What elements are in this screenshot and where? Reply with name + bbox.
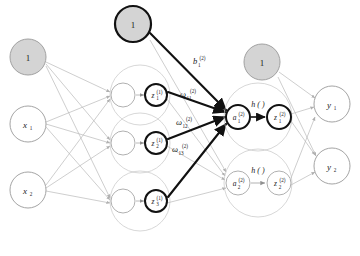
weight-11-base: ω — [180, 89, 186, 99]
edge-x2-h2 — [46, 146, 110, 188]
weight-13-sup: (2) — [182, 143, 188, 150]
edge-weight-labels: b 1 (2) ω 11 (2) ω 12 (2) ω 13 (2) — [172, 55, 206, 156]
output-z2-sup: (2) — [279, 177, 285, 184]
output-y2-sub: 2 — [334, 167, 337, 173]
edge-bias-h2 — [46, 64, 110, 140]
output-z1-sub: 1 — [279, 118, 282, 124]
hidden-z2-sub: 2 — [156, 143, 159, 149]
bias-input-label: 1 — [26, 53, 31, 63]
output-z1-label: z — [273, 113, 277, 122]
edge-biasO-y1 — [279, 72, 315, 98]
bias-weight-sup: (2) — [200, 55, 206, 62]
hidden-z1-sup: (1) — [156, 89, 162, 96]
weight-13-sub: 13 — [179, 150, 185, 156]
weight-11-sup: (2) — [190, 88, 196, 95]
output-y2-label: y — [326, 162, 331, 172]
output-unit-1: a 1 (2) h ( ) z 1 (2) — [226, 100, 291, 129]
hidden-bias-node: 1 — [115, 6, 151, 42]
output-a2-sub: 2 — [238, 184, 241, 190]
input-layer: 1 x 1 x 2 — [10, 39, 46, 208]
hidden-a-nodes — [111, 83, 135, 213]
hidden-z3-label: z — [151, 197, 155, 206]
input-x1-circle[interactable] — [10, 106, 46, 142]
edge-z3-a2 — [167, 188, 226, 203]
edges-input-to-hidden — [46, 62, 110, 203]
output-a2-label: a — [233, 179, 237, 188]
input-x1-label: x — [22, 120, 27, 130]
hidden-z1-label: z — [151, 91, 155, 100]
hidden-z1-sub: 1 — [156, 95, 159, 101]
hidden-a1-circle[interactable] — [111, 83, 135, 107]
bias-output-label: 1 — [260, 58, 265, 68]
output-y1-circle[interactable] — [314, 86, 350, 122]
output-a1-label: a — [233, 113, 237, 122]
weight-11-sub: 11 — [187, 95, 192, 101]
edge-x1-h3 — [46, 127, 110, 200]
output-h1-label: h ( ) — [251, 100, 265, 109]
input-x2-label: x — [22, 186, 27, 196]
input-x1-sub: 1 — [30, 125, 33, 131]
hidden-z-nodes: z 1 (1) z 2 (1) z 3 (1) — [145, 84, 167, 212]
hidden-internal-arrows — [136, 95, 144, 201]
output-y2-circle[interactable] — [314, 148, 350, 184]
weight-13-base: ω — [172, 144, 178, 154]
edge-x2-h3 — [46, 191, 110, 203]
edge-z1-to-a1 — [168, 92, 225, 112]
bias-weight-sub: 1 — [198, 62, 201, 68]
input-x2-circle[interactable] — [10, 172, 46, 208]
output-h2-label: h ( ) — [251, 166, 265, 175]
hidden-a3-circle[interactable] — [111, 189, 135, 213]
neural-network-svg: 1 x 1 x 2 1 z 1 (1) z 2 (1) z 3 (1) — [0, 0, 360, 256]
edge-z2o-y2 — [291, 172, 315, 185]
output-a1-sub: 1 — [238, 118, 241, 124]
output-y1-label: y — [326, 100, 331, 110]
hidden-z3-sub: 3 — [156, 201, 159, 207]
diagram-canvas: 1 x 1 x 2 1 z 1 (1) z 2 (1) z 3 (1) — [0, 0, 360, 256]
output-y1-sub: 1 — [334, 105, 337, 111]
bias-weight-base: b — [193, 56, 197, 66]
hidden-a2-circle[interactable] — [111, 131, 135, 155]
output-a2-sup: (2) — [238, 177, 244, 184]
bias-hidden-label: 1 — [131, 20, 136, 30]
output-z2-label: z — [273, 179, 277, 188]
output-unit-2: a 2 (2) h ( ) z 2 (2) — [226, 166, 291, 195]
weight-12-base: ω — [176, 117, 182, 127]
edge-x2-h1 — [46, 99, 110, 185]
edge-x1-h1 — [46, 96, 110, 122]
output-layer: y 1 y 2 — [314, 86, 350, 184]
output-bias-node: 1 — [244, 44, 280, 80]
edge-bias-h1 — [46, 62, 110, 92]
weight-12-sup: (2) — [186, 116, 192, 123]
output-a1-sup: (2) — [238, 111, 244, 118]
hidden-z2-sup: (1) — [156, 137, 162, 144]
weight-12-sub: 12 — [183, 123, 189, 129]
output-z1-sup: (2) — [279, 111, 285, 118]
edge-x1-h2 — [46, 124, 110, 143]
hidden-z3-sup: (1) — [156, 195, 162, 202]
hidden-z2-label: z — [151, 139, 155, 148]
output-z2-sub: 2 — [279, 184, 282, 190]
edge-bias-h3 — [46, 66, 110, 198]
input-x2-sub: 2 — [30, 191, 33, 197]
